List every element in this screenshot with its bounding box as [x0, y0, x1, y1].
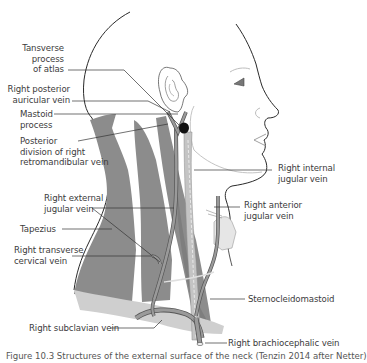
ear: [158, 67, 187, 112]
label-right-posterior-auricular-vein: Right posterior auricular vein: [4, 84, 70, 105]
ear-inner2: [169, 84, 174, 96]
label-line: of atlas: [8, 64, 64, 75]
label-right-external-jugular-vein: Right external jugular vein: [44, 193, 103, 214]
ear-inner: [165, 76, 178, 101]
label-line: process: [8, 54, 64, 65]
label-line: Sternocleidomastoid: [248, 294, 334, 305]
label-right-internal-jugular-vein: Right internal jugular vein: [278, 163, 335, 184]
label-line: Right posterior: [4, 84, 70, 95]
label-transverse-process-atlas: Tansverse process of atlas: [8, 43, 64, 75]
mastoid-process-shape: [179, 123, 189, 134]
figure-caption: Figure 10.3 Structures of the external s…: [6, 351, 367, 361]
eye: [234, 78, 244, 86]
brow: [230, 68, 250, 72]
label-line: Tapezius: [20, 224, 56, 235]
label-mastoid-process: Mastoid process: [20, 109, 53, 130]
label-right-subclavian-vein: Right subclavian vein: [29, 323, 119, 334]
label-line: Posterior: [20, 136, 109, 147]
nostril: [256, 108, 261, 118]
label-line: Right external: [44, 193, 103, 204]
label-line: process: [20, 120, 53, 131]
label-line: Tansverse: [8, 43, 64, 54]
jaw-line: [190, 106, 262, 173]
label-right-brachiocephalic-vein: Right brachiocephalic vein: [228, 338, 339, 349]
skull-outline: [83, 12, 130, 118]
label-line: jugular vein: [278, 174, 335, 185]
label-trapezius: Tapezius: [20, 224, 56, 235]
label-line: cervical vein: [14, 256, 84, 267]
label-line: jugular vein: [244, 211, 302, 222]
label-line: retromandibular vein: [20, 157, 109, 168]
label-line: Right transverse: [14, 245, 84, 256]
label-line: auricular vein: [4, 95, 70, 106]
label-right-anterior-jugular-vein: Right anterior jugular vein: [244, 200, 302, 221]
label-posterior-division-retromandibular: Posterior division of right retromandibu…: [20, 136, 109, 168]
label-line: Right subclavian vein: [29, 323, 119, 334]
label-line: jugular vein: [44, 204, 103, 215]
label-line: Right brachiocephalic vein: [228, 338, 339, 349]
label-line: Right internal: [278, 163, 335, 174]
label-sternocleidomastoid: Sternocleidomastoid: [248, 294, 334, 305]
label-line: Right anterior: [244, 200, 302, 211]
label-line: division of right: [20, 147, 109, 158]
label-right-transverse-cervical-vein: Right transverse cervical vein: [14, 245, 84, 266]
label-line: Mastoid: [20, 109, 53, 120]
